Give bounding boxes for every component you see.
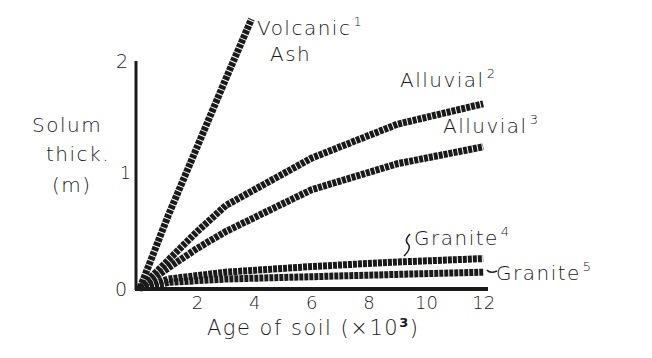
- leader-lines: [0, 0, 652, 358]
- granite-4-leader-icon: [404, 234, 410, 256]
- granite-5-leader-icon: [487, 270, 497, 272]
